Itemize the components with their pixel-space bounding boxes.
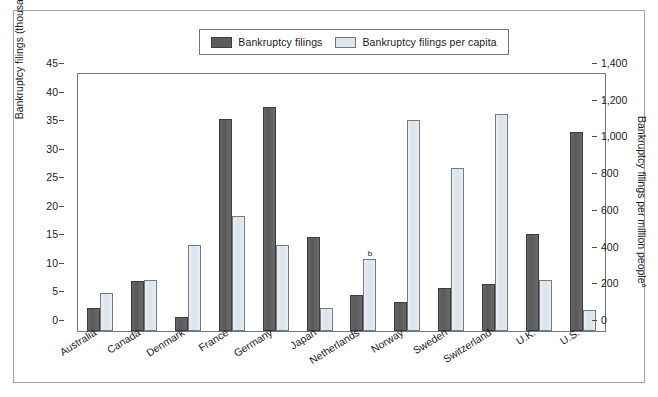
left-tick-mark [59,120,64,121]
left-tick-mark [59,92,64,93]
left-tick-mark [59,263,64,264]
right-axis-title-text: Bankruptcy filings per million people [636,116,648,284]
bar-group [517,74,561,331]
chart-legend: Bankruptcy filings Bankruptcy filings pe… [199,29,509,55]
legend-label-filings: Bankruptcy filings [238,36,322,48]
bar-group [210,74,254,331]
bar-filings [438,288,451,331]
bar-filings [307,237,320,331]
left-tick-mark [59,177,64,178]
left-tick-label: 45 [32,58,58,69]
right-tick-label: 1,000 [601,131,627,142]
bar-group [78,74,122,331]
bar-filings [263,107,276,331]
left-tick-mark [59,63,64,64]
bar-group [122,74,166,331]
right-tick-mark [592,173,597,174]
left-tick-label: 15 [32,229,58,240]
legend-light-swatch-icon [335,37,356,48]
bar-per-capita [407,120,420,331]
left-tick-label: 10 [32,258,58,269]
left-axis-title: Bankruptcy filings (thousands) [13,0,25,129]
bar-group: b [342,74,386,331]
left-tick-label: 40 [32,87,58,98]
right-tick-label: 400 [601,242,619,253]
bar-filings [350,295,363,331]
bar-group [166,74,210,331]
bar-container: b [78,74,605,331]
netherlands-footnote-marker: b [368,249,372,258]
right-tick-mark [592,63,597,64]
left-tick-label: 30 [32,144,58,155]
bar-per-capita [232,216,245,331]
right-tick-label: 200 [601,278,619,289]
bar-per-capita [276,245,289,331]
right-tick-label: 1,200 [601,95,627,106]
bar-filings [482,284,495,331]
left-tick-label: 5 [32,286,58,297]
right-axis-title: Bankruptcy filings per million peoplea [636,116,649,296]
bar-per-capita [451,168,464,331]
bar-per-capita [100,293,113,331]
right-tick-label: 800 [601,168,619,179]
bar-filings [219,119,232,331]
bar-per-capita [320,308,333,331]
bar-per-capita: b [363,259,376,331]
left-tick-label: 20 [32,201,58,212]
left-tick-mark [59,320,64,321]
legend-label-per-capita: Bankruptcy filings per capita [362,36,496,48]
bar-group [429,74,473,331]
bar-group [561,74,605,331]
chart-frame: Bankruptcy filings Bankruptcy filings pe… [13,10,645,383]
left-tick-mark [59,206,64,207]
bar-filings [526,234,539,331]
right-tick-mark [592,210,597,211]
right-tick-mark [592,247,597,248]
bar-group [473,74,517,331]
left-tick-label: 25 [32,172,58,183]
bar-group [385,74,429,331]
left-tick-mark [59,234,64,235]
bar-filings [570,132,583,331]
bar-group [254,74,298,331]
right-tick-label: 600 [601,205,619,216]
right-tick-mark [592,320,597,321]
right-tick-mark [592,283,597,284]
right-tick-mark [592,100,597,101]
plot-area: b [77,73,606,332]
bar-group [298,74,342,331]
bar-per-capita [144,280,157,331]
right-tick-mark [592,136,597,137]
right-axis-superscript: a [641,284,648,288]
right-tick-label: 1,400 [601,58,627,69]
right-tick-label: 0 [601,315,607,326]
left-tick-label: 0 [32,315,58,326]
legend-dark-swatch-icon [211,37,232,48]
legend-item-bankruptcy-filings-per-capita: Bankruptcy filings per capita [335,36,496,48]
bar-per-capita [539,280,552,331]
left-tick-mark [59,149,64,150]
bar-per-capita [188,245,201,331]
legend-item-bankruptcy-filings: Bankruptcy filings [211,36,322,48]
left-tick-label: 35 [32,115,58,126]
left-tick-mark [59,291,64,292]
bar-per-capita [495,114,508,331]
bar-filings [131,281,144,331]
